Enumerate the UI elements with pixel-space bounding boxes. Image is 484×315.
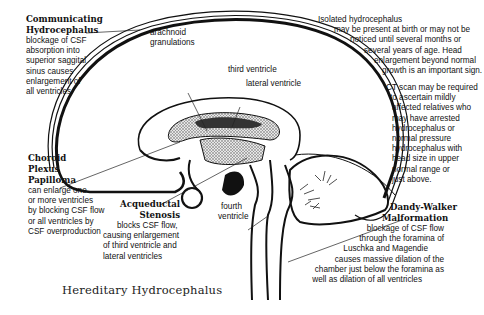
- aqueduct-dilated: [182, 188, 202, 208]
- dandy-walker-label: Dandy-Walker Malformation: [380, 202, 457, 224]
- aqueductal-stenosis-label: Acqueductal Stenosis: [100, 199, 180, 221]
- diagram-title: Hereditary Hydrocephalus: [62, 283, 222, 297]
- midbrain-dark: [222, 172, 244, 196]
- third-ventricle: [200, 138, 265, 165]
- third-ventricle-label: third ventricle: [228, 65, 277, 75]
- aqueductal-stenosis-description: blocks CSF flow, causing enlargement of …: [103, 221, 179, 262]
- fourth-ventricle-label: fourth ventricle: [218, 202, 249, 222]
- isolated-hydrocephalus-note: Isolated hydrocephalus may be present at…: [318, 15, 482, 76]
- arachnoid-granulations-label: arachnoid granulations: [150, 28, 195, 48]
- communicating-hydrocephalus-label: Communicating Hydrocephalus blockage of …: [26, 14, 103, 97]
- cerebellum-folia: [300, 171, 337, 209]
- choroid-plexus-papilloma-label: Choroid Plexus Papilloma can enlarge one…: [28, 153, 104, 237]
- dandy-walker-description: blockage of CSF flow through the foramin…: [244, 224, 444, 285]
- lateral-ventricle-label: lateral ventricle: [246, 79, 301, 89]
- hydrocephalus-diagram: Communicating Hydrocephalus blockage of …: [0, 0, 484, 315]
- lateral-ventricle: [168, 113, 279, 142]
- cerebellum: [289, 156, 388, 225]
- ct-scan-note: CT scan may be required to ascertain mil…: [386, 83, 478, 185]
- tentorium: [295, 154, 395, 195]
